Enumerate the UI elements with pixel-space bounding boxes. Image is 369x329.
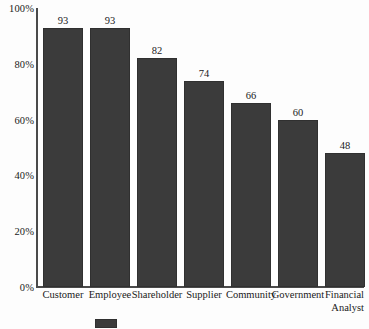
- bar-chart: 100% 80% 60% 40% 20% 0% 93 93 82 74: [0, 0, 369, 329]
- x-axis-category-labels: Customer Employee Shareholder Supplier C…: [37, 289, 364, 323]
- bar-rect[interactable]: [184, 81, 224, 287]
- bar-value-label: 93: [90, 15, 130, 26]
- bar-value-label: 93: [43, 15, 83, 26]
- y-tick-label: 100%: [0, 4, 34, 14]
- bar-group: 93: [43, 8, 83, 287]
- y-tick-label: 60%: [0, 116, 34, 126]
- bar-value-label: 74: [184, 68, 224, 79]
- bar-rect[interactable]: [278, 120, 318, 287]
- bars-layer: 93 93 82 74 66 60: [37, 8, 364, 287]
- bar-rect[interactable]: [137, 58, 177, 287]
- bar-rect[interactable]: [325, 153, 365, 287]
- y-tick-label: 0%: [0, 283, 34, 293]
- bar-group: 48: [325, 8, 365, 287]
- y-axis-tick-labels: 100% 80% 60% 40% 20% 0%: [0, 0, 34, 329]
- bar-value-label: 82: [137, 45, 177, 56]
- bar-rect[interactable]: [43, 28, 83, 287]
- bar-rect[interactable]: [90, 28, 130, 287]
- bar-value-label: 66: [231, 90, 271, 101]
- legend-swatch-icon: [95, 319, 117, 328]
- x-label-financial-analyst: Financial Analyst: [314, 289, 364, 314]
- bar-group: 93: [90, 8, 130, 287]
- bar-value-label: 60: [278, 107, 318, 118]
- bar-group: 82: [137, 8, 177, 287]
- bar-group: 74: [184, 8, 224, 287]
- y-tick-label: 80%: [0, 60, 34, 70]
- x-label-text-line2: Analyst: [314, 302, 364, 315]
- bar-group: 66: [231, 8, 271, 287]
- legend: [95, 319, 122, 328]
- bar-rect[interactable]: [231, 103, 271, 287]
- x-label-text-line1: Financial: [325, 289, 364, 300]
- bar-group: 60: [278, 8, 318, 287]
- y-tick-label: 40%: [0, 171, 34, 181]
- bar-value-label: 48: [325, 140, 365, 151]
- plot-area: 93 93 82 74 66 60: [37, 8, 364, 287]
- y-tick-label: 20%: [0, 227, 34, 237]
